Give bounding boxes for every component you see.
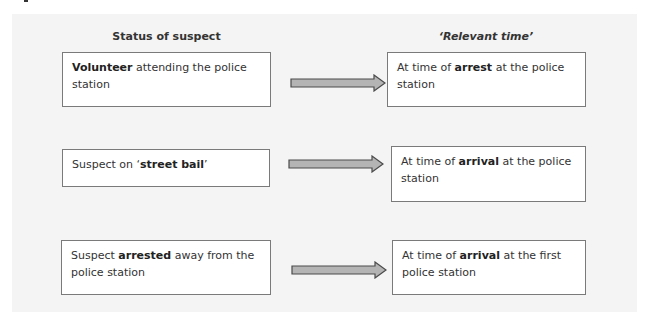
status-box-street-bail: Suspect on ‘street bail’ [62,149,270,187]
status-box-arrested-away: Suspect arrested away from the police st… [61,240,271,295]
status-text-bold: Volunteer [72,61,133,74]
relevant-time-box-arrival: At time of arrival at the police station [391,146,586,202]
right-arrow-icon [288,155,384,173]
status-text-before: Suspect [71,249,118,262]
header-relevant-time: ‘Relevant time’ [387,30,585,43]
cropped-text-fragment [24,0,28,2]
relevant-time-text-before: At time of [397,61,455,74]
status-text-bold: street bail [140,158,204,171]
status-text-after: ’ [204,158,208,171]
relevant-time-text-bold: arrival [459,155,499,168]
right-arrow-icon [291,261,387,279]
header-status-of-suspect: Status of suspect [62,30,271,43]
relevant-time-text-before: At time of [402,249,460,262]
relevant-time-box-arrival-first-station: At time of arrival at the first police s… [392,240,586,295]
right-arrow-icon [290,74,386,92]
relevant-time-text-bold: arrest [455,61,493,74]
status-text-before: Suspect on ‘ [72,158,140,171]
relevant-time-box-arrest: At time of arrest at the police station [387,52,586,107]
status-box-volunteer: Volunteer attending the police station [62,52,271,107]
relevant-time-text-before: At time of [401,155,459,168]
relevant-time-text-bold: arrival [460,249,500,262]
status-text-bold: arrested [118,249,171,262]
